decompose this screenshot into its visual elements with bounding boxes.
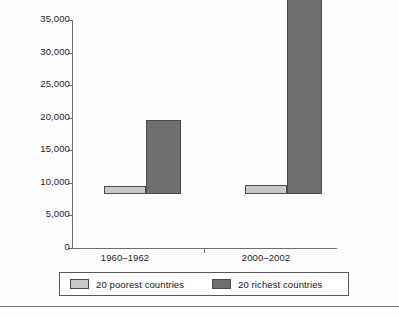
bar-richest-1960-1962[interactable] [146,120,181,194]
bars-layer [0,0,399,262]
bar-richest-2000-2002[interactable] [287,0,322,194]
chart-page: 35,000 30,000 25,000 20,000 15,000 10,00… [0,0,399,316]
legend-item-poorest[interactable]: 20 poorest countries [70,273,184,295]
x-tick-between-categories [204,248,205,253]
bottom-divider [0,306,399,307]
legend-label-poorest: 20 poorest countries [96,279,184,290]
bar-poorest-2000-2002[interactable] [245,185,287,194]
legend-swatch-icon-poorest [70,279,89,289]
bar-chart-plot-area: 35,000 30,000 25,000 20,000 15,000 10,00… [0,0,399,262]
legend-label-richest: 20 richest countries [238,279,322,290]
x-category-label-1960-1962: 1960–1962 [93,252,157,263]
x-category-label-2000-2002: 2000–2002 [234,252,298,263]
legend-swatch-icon-richest [212,279,231,289]
bar-poorest-1960-1962[interactable] [104,186,146,194]
legend-item-richest[interactable]: 20 richest countries [212,273,322,295]
chart-legend: 20 poorest countries 20 richest countrie… [59,272,349,296]
